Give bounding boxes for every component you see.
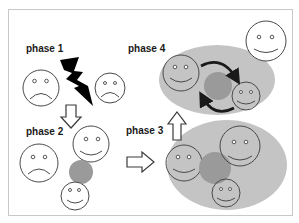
phase-2-label: phase 2 — [26, 126, 64, 137]
sad-face-icon — [20, 144, 58, 182]
sad-face-small-icon — [95, 73, 125, 103]
gray-blob — [204, 72, 232, 100]
gray-blob — [69, 160, 93, 184]
phase-4-label: phase 4 — [128, 43, 166, 54]
happy-face-small-icon — [61, 182, 89, 210]
phase-3-label: phase 3 — [126, 125, 164, 136]
sad-face-icon — [23, 70, 59, 106]
happy-face-icon — [73, 126, 109, 162]
phase-1-label: phase 1 — [26, 43, 64, 54]
phase-diagram: phase 1 phase 2 phase 3 — [0, 0, 299, 223]
outside-happy-face-icon — [246, 21, 286, 61]
